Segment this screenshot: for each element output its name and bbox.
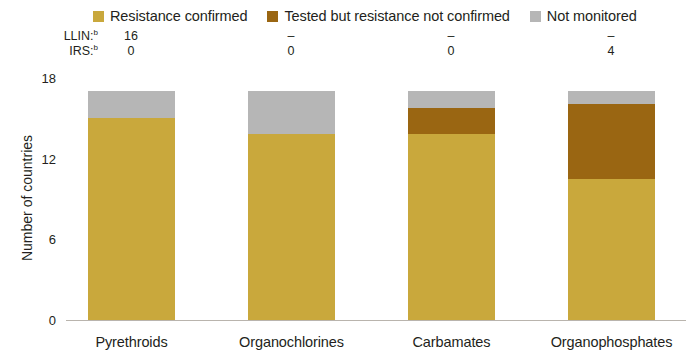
y-tick-label-0: 0 <box>22 314 56 327</box>
x-tick-label-pyrethroids: Pyrethroids <box>52 333 212 351</box>
x-tick-label-carbamates: Carbamates <box>372 333 532 351</box>
bar-segment-not-monitored-organochlorines <box>248 91 335 134</box>
bar-segment-resistance-confirmed-organochlorines <box>248 134 335 320</box>
bar-segment-tested-not-confirmed-organophosphates <box>568 104 655 179</box>
bar-segment-not-monitored-carbamates <box>408 91 495 107</box>
stacked-bar-chart: Number of countries 18 12 6 0 Pyrethroid… <box>0 0 686 361</box>
y-tick-label-6: 6 <box>22 233 56 246</box>
bar-organophosphates <box>568 91 655 320</box>
bar-segment-resistance-confirmed-organophosphates <box>568 179 655 320</box>
bar-segment-not-monitored-pyrethroids <box>88 91 175 118</box>
bar-segment-not-monitored-organophosphates <box>568 91 655 103</box>
bar-organochlorines <box>248 91 335 320</box>
x-tick-label-organochlorines: Organochlorines <box>212 333 372 351</box>
bar-pyrethroids <box>88 91 175 320</box>
bar-carbamates <box>408 91 495 320</box>
x-axis-line <box>66 320 686 321</box>
x-tick-label-organophosphates: Organophosphates <box>532 333 686 351</box>
bar-segment-resistance-confirmed-carbamates <box>408 134 495 320</box>
bar-segment-tested-not-confirmed-carbamates <box>408 108 495 135</box>
y-tick-label-12: 12 <box>22 153 56 166</box>
y-tick-label-18: 18 <box>22 72 56 85</box>
bar-segment-resistance-confirmed-pyrethroids <box>88 118 175 320</box>
y-axis-label: Number of countries <box>19 98 35 298</box>
